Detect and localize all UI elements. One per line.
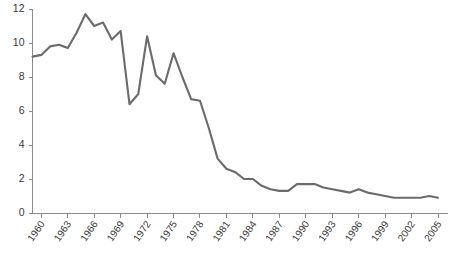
x-tick-label: 1978 (184, 218, 206, 243)
x-tick-label: 1966 (78, 218, 100, 243)
x-tick-label: 1969 (105, 218, 127, 243)
x-tick-label: 2005 (422, 218, 444, 243)
x-tick-label: 1963 (52, 218, 74, 243)
x-tick-label: 1993 (316, 218, 338, 243)
y-tick-label: 4 (19, 138, 25, 150)
x-tick-label: 1972 (131, 218, 153, 243)
x-tick-group: 1960196319661969197219751978198119841987… (25, 214, 444, 243)
x-tick-label: 2002 (395, 218, 417, 243)
y-tick-label: 10 (13, 36, 25, 48)
y-tick-label: 0 (19, 206, 25, 218)
y-tick-label: 12 (13, 2, 25, 14)
x-tick-label: 1975 (157, 218, 179, 243)
x-axis-group: 1960196319661969197219751978198119841987… (25, 214, 448, 244)
x-tick-label: 1999 (369, 218, 391, 243)
chart-container: 024681012 196019631966196919721975197819… (0, 0, 454, 264)
x-tick-label: 1990 (290, 218, 312, 243)
y-tick-label: 2 (19, 172, 25, 184)
line-chart-figure: 024681012 196019631966196919721975197819… (0, 0, 454, 264)
x-tick-label: 1981 (210, 218, 232, 243)
x-tick-label: 1987 (263, 218, 285, 243)
y-axis-group: 024681012 (13, 2, 33, 218)
y-tick-label: 6 (19, 104, 25, 116)
series-group (33, 14, 439, 198)
x-tick-label: 1996 (343, 218, 365, 243)
data-series-line (33, 14, 439, 198)
y-tick-label: 8 (19, 70, 25, 82)
x-tick-label: 1960 (25, 218, 47, 243)
x-tick-label: 1984 (237, 218, 259, 243)
y-tick-group: 024681012 (13, 2, 33, 218)
